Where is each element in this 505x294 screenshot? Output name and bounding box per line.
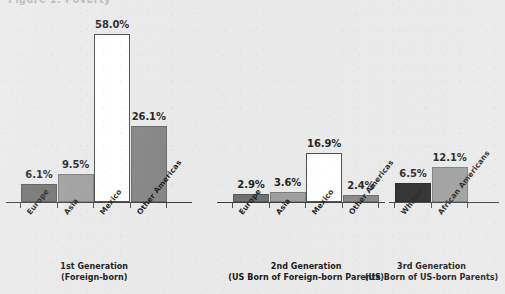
value-label-mexico-g1: 58.0% [86,19,138,30]
axis-tick-g1-4 [166,203,167,208]
axis-tick-g3-0 [394,203,395,208]
axis-tick-g2-3 [342,203,343,208]
value-label-african-americans-g3: 12.1% [424,152,476,163]
axis-tick-g1-3 [130,203,131,208]
bar-chart-plot: 6.1%Europe9.5%Asia58.0%Mexico26.1%Other … [0,0,505,294]
group-caption-g3: 3rd Generation(US Born of US-born Parent… [322,261,505,283]
axis-tick-g3-1 [431,203,432,208]
axis-tick-g1-0 [20,203,21,208]
group-caption-line2-g3: (US Born of US-born Parents) [322,272,505,283]
axis-tick-g2-1 [269,203,270,208]
group-caption-g1: 1st Generation(Foreign-born) [0,261,204,283]
axis-tick-g2-4 [378,203,379,208]
axis-tick-g1-2 [93,203,94,208]
axis-tick-g2-2 [305,203,306,208]
group-caption-line2-g1: (Foreign-born) [0,272,204,283]
axis-tick-g3-2 [467,203,468,208]
value-label-other-americas-g1: 26.1% [123,111,175,122]
group-caption-line1-g1: 1st Generation [0,261,204,272]
axis-tick-g2-0 [232,203,233,208]
value-label-mexico-g2: 16.9% [298,138,350,149]
group-caption-line1-g3: 3rd Generation [322,261,505,272]
axis-tick-g1-1 [57,203,58,208]
